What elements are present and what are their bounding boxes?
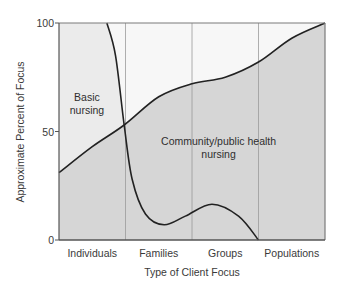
y-ticks: 050100 xyxy=(36,17,59,246)
y-axis-title: Approximate Percent of Focus xyxy=(14,61,26,202)
community-nursing-label: nursing xyxy=(201,148,236,160)
y-tick-label: 50 xyxy=(42,126,54,138)
chart: 050100 IndividualsFamiliesGroupsPopulati… xyxy=(0,0,342,281)
x-ticks: IndividualsFamiliesGroupsPopulations xyxy=(67,247,319,259)
y-tick-label: 100 xyxy=(36,17,54,29)
x-tick-label: Families xyxy=(139,247,178,259)
x-tick-label: Groups xyxy=(208,247,242,259)
x-tick-label: Populations xyxy=(264,247,319,259)
community-nursing-label: Community/public health xyxy=(161,135,276,147)
x-axis-title: Type of Client Focus xyxy=(144,266,240,278)
basic-nursing-label: nursing xyxy=(70,104,105,116)
y-tick-label: 0 xyxy=(48,234,54,246)
x-tick-label: Individuals xyxy=(67,247,117,259)
basic-nursing-label: Basic xyxy=(74,91,100,103)
